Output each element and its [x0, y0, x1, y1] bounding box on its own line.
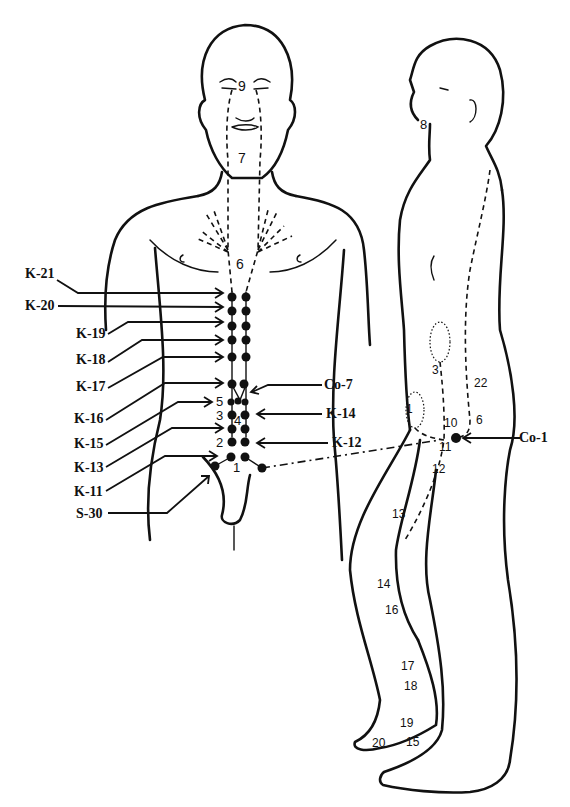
side-number-19: 19 [400, 717, 413, 729]
point-number-3: 3 [216, 409, 223, 422]
acupuncture-diagram: K-21 K-20 K-19 K-18 K-17 K-16 K-15 K-13 … [0, 0, 570, 807]
side-number-10: 10 [444, 417, 457, 429]
label-K-12: K-12 [332, 436, 362, 450]
point-number-5: 5 [216, 395, 223, 408]
side-number-11: 11 [439, 441, 451, 453]
label-K-13: K-13 [74, 461, 104, 475]
side-number-16: 16 [385, 604, 398, 616]
point-number-4: 4 [234, 414, 241, 427]
point-number-2: 2 [216, 436, 223, 449]
side-number-15: 15 [406, 736, 419, 748]
side-number-14: 14 [377, 578, 390, 590]
label-K-19: K-19 [76, 327, 106, 341]
side-figure-outline [350, 39, 517, 793]
point-number-9: 9 [238, 79, 246, 93]
side-number-22: 22 [474, 377, 487, 389]
label-K-16: K-16 [74, 412, 104, 426]
label-Co-1: Co-1 [519, 431, 548, 445]
label-Co-7: Co-7 [324, 378, 353, 392]
side-number-12: 12 [432, 463, 445, 475]
side-number-17: 17 [401, 660, 414, 672]
side-number-13: 13 [392, 508, 405, 520]
side-number-18: 18 [404, 680, 417, 692]
diagram-drawing [0, 0, 570, 807]
side-number-6: 6 [476, 414, 483, 426]
label-K-18: K-18 [76, 353, 106, 367]
point-number-6: 6 [236, 257, 244, 271]
side-number-3: 3 [432, 364, 439, 376]
label-K-21: K-21 [25, 267, 55, 281]
side-number-8: 8 [420, 118, 427, 131]
label-K-20: K-20 [25, 299, 55, 313]
side-number-1: 1 [406, 403, 413, 415]
label-K-15: K-15 [74, 437, 104, 451]
point-number-1: 1 [233, 461, 240, 474]
point-number-7: 7 [238, 151, 246, 165]
side-number-20: 20 [372, 737, 385, 749]
label-K-11: K-11 [74, 485, 103, 499]
label-K-14: K-14 [326, 407, 356, 421]
label-K-17: K-17 [76, 380, 106, 394]
front-callouts [57, 280, 328, 513]
label-S-30: S-30 [76, 507, 102, 521]
